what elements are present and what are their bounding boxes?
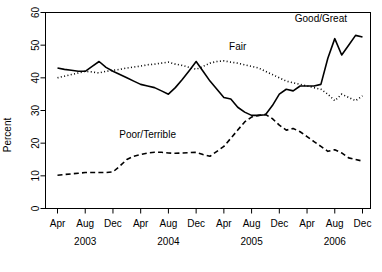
y-tick-label: 40 [30, 72, 41, 84]
x-tick-label: Apr [133, 218, 149, 229]
x-tick-label: Dec [104, 218, 122, 229]
series-label-poor-terrible: Poor/Terrible [119, 129, 176, 140]
x-tick-label: Dec [270, 218, 288, 229]
x-year-label: 2006 [324, 236, 347, 247]
y-tick-label: 0 [30, 205, 41, 211]
series-label-good-great: Good/Great [295, 13, 347, 24]
x-tick-label: Aug [243, 218, 261, 229]
x-year-label: 2005 [240, 236, 263, 247]
chart-background [0, 0, 382, 272]
y-tick-label: 20 [30, 137, 41, 149]
x-tick-label: Apr [50, 218, 66, 229]
y-tick-label: 50 [30, 39, 41, 51]
series-label-fair: Fair [229, 41, 247, 52]
y-axis-title: Percent [2, 118, 13, 153]
x-year-label: 2003 [74, 236, 97, 247]
x-tick-label: Aug [76, 218, 94, 229]
x-tick-label: Aug [160, 218, 178, 229]
x-year-label: 2004 [157, 236, 180, 247]
x-tick-label: Apr [299, 218, 315, 229]
y-tick-label: 10 [30, 170, 41, 182]
x-tick-label: Apr [216, 218, 232, 229]
line-chart-figure: 0102030405060 AprAugDecAprAugDecAprAugDe… [0, 0, 382, 272]
x-tick-label: Dec [187, 218, 205, 229]
x-tick-label: Aug [326, 218, 344, 229]
chart-container: 0102030405060 AprAugDecAprAugDecAprAugDe… [0, 0, 382, 272]
y-tick-label: 30 [30, 105, 41, 117]
x-tick-label: Dec [354, 218, 372, 229]
y-tick-label: 60 [30, 7, 41, 19]
